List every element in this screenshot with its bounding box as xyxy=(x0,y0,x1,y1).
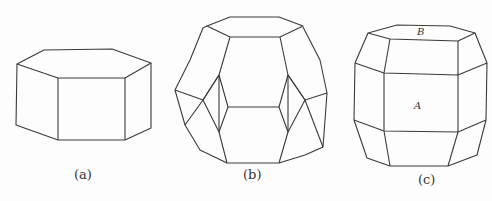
crystal-shapes-diagram: B A (a) (b) (c) xyxy=(0,0,492,201)
face-label-a: A xyxy=(414,100,421,111)
panel-label-c: (c) xyxy=(418,172,435,187)
panel-label-b: (b) xyxy=(243,167,261,182)
hexagonal-prism-a xyxy=(16,49,151,140)
panel-label-a: (a) xyxy=(74,167,92,182)
bevelled-prism-c xyxy=(354,25,487,166)
face-label-b: B xyxy=(417,26,424,37)
truncated-octahedron-b xyxy=(175,17,327,163)
